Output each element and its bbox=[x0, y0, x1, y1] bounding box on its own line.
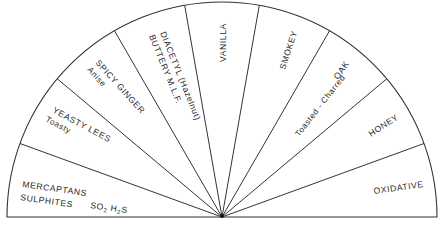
aroma-wheel: MERCAPTANS SULPHITES SO2 H2S YEASTY LEES… bbox=[0, 0, 445, 229]
center-point bbox=[220, 214, 224, 218]
segment-label: VANILLA bbox=[218, 23, 228, 62]
segment-vanilla: VANILLA bbox=[218, 23, 228, 62]
